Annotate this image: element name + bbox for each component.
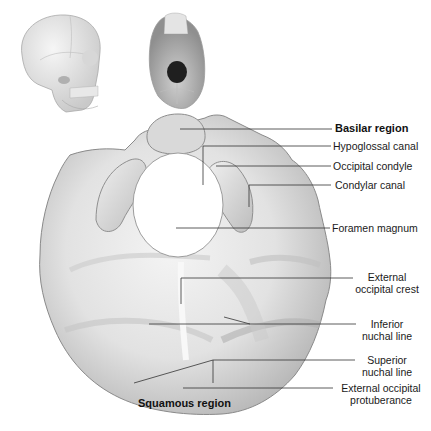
label-line-2: nuchal line: [347, 366, 427, 378]
label-line-1: External: [342, 271, 431, 283]
label-basilar-region: Basilar region: [335, 122, 408, 134]
occipital-bone: [40, 114, 331, 414]
label-external-occipital-crest: External occipital crest: [342, 271, 431, 295]
label-foramen-magnum: Foramen magnum: [332, 222, 418, 234]
label-line-1: Inferior: [347, 318, 427, 330]
label-hypoglossal-canal: Hypoglossal canal: [333, 140, 418, 152]
label-line-1: External occipital: [333, 382, 429, 394]
skull-inferior-thumbnail: [149, 13, 204, 109]
label-occipital-condyle: Occipital condyle: [333, 160, 412, 172]
skull-lateral-thumbnail: [22, 15, 101, 112]
label-line-2: nuchal line: [347, 330, 427, 342]
label-external-occipital-protuberance: External occipital protuberance: [333, 382, 429, 406]
label-line-2: protuberance: [333, 394, 429, 406]
label-line-1: Superior: [347, 354, 427, 366]
occipital-bone-diagram: Basilar region Hypoglossal canal Occipit…: [0, 0, 431, 431]
label-inferior-nuchal-line: Inferior nuchal line: [347, 318, 427, 342]
label-superior-nuchal-line: Superior nuchal line: [347, 354, 427, 378]
label-condylar-canal: Condylar canal: [335, 179, 405, 191]
label-squamous-region: Squamous region: [138, 397, 231, 409]
label-line-2: occipital crest: [342, 283, 431, 295]
